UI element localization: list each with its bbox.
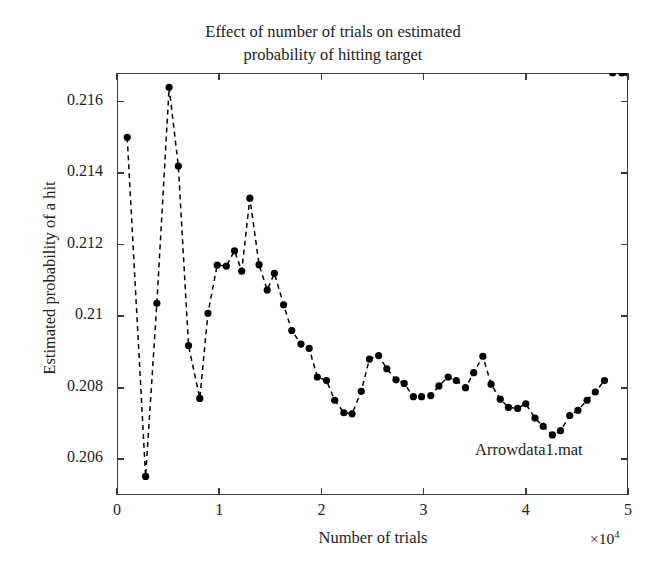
data-point — [566, 412, 573, 419]
data-point — [470, 369, 477, 376]
data-point — [255, 261, 262, 268]
data-point — [549, 431, 556, 438]
data-point — [592, 388, 599, 395]
x-axis-multiplier: ×104 — [590, 529, 620, 548]
data-point — [392, 376, 399, 383]
x-tick-label: 2 — [301, 501, 341, 519]
data-point — [366, 356, 373, 363]
data-point — [280, 301, 287, 308]
data-point — [331, 397, 338, 404]
x-tick-label: 5 — [608, 501, 648, 519]
chart-title: Effect of number of trials on estimated … — [0, 20, 666, 66]
data-point — [418, 393, 425, 400]
x-tick-mark — [116, 73, 118, 80]
data-point — [609, 73, 616, 77]
x-tick-label: 4 — [506, 501, 546, 519]
x-tick-mark — [218, 73, 220, 80]
data-point — [231, 247, 238, 254]
y-tick-mark — [117, 172, 124, 174]
data-point — [540, 423, 547, 430]
x-tick-mark — [116, 488, 118, 495]
x-tick-mark — [218, 488, 220, 495]
x-axis-multiplier-base: ×10 — [590, 530, 614, 547]
data-point — [185, 342, 192, 349]
y-tick-mark — [117, 101, 124, 103]
data-file-annotation: Arrowdata1.mat — [475, 440, 583, 460]
data-point — [505, 404, 512, 411]
data-point — [383, 365, 390, 372]
y-axis-label: Estimated probability of a hit — [40, 68, 60, 488]
data-point — [175, 162, 182, 169]
y-tick-label: 0.208 — [17, 377, 103, 395]
y-tick-label: 0.21 — [17, 305, 103, 323]
x-tick-label: 1 — [199, 501, 239, 519]
data-point — [401, 380, 408, 387]
y-tick-mark — [621, 101, 628, 103]
data-point — [531, 415, 538, 422]
data-point — [288, 327, 295, 334]
x-tick-mark — [627, 73, 629, 80]
series-markers — [124, 73, 628, 480]
data-point — [514, 405, 521, 412]
data-series-layer — [117, 73, 628, 495]
x-tick-mark — [525, 73, 527, 80]
data-point — [358, 388, 365, 395]
y-tick-label: 0.206 — [17, 448, 103, 466]
data-point — [223, 263, 230, 270]
data-point — [427, 392, 434, 399]
y-tick-mark — [117, 315, 124, 317]
data-point — [314, 373, 321, 380]
chart-title-line-1: Effect of number of trials on estimated — [0, 20, 666, 43]
data-point — [375, 352, 382, 359]
data-point — [462, 384, 469, 391]
chart-figure: Effect of number of trials on estimated … — [0, 0, 666, 575]
y-tick-mark — [621, 315, 628, 317]
data-point — [196, 395, 203, 402]
x-tick-mark — [423, 73, 425, 80]
y-tick-mark — [117, 387, 124, 389]
x-tick-mark — [423, 488, 425, 495]
data-point — [410, 393, 417, 400]
data-point — [323, 377, 330, 384]
data-point — [348, 410, 355, 417]
x-tick-mark — [525, 488, 527, 495]
data-point — [601, 377, 608, 384]
data-point — [297, 340, 304, 347]
y-tick-label: 0.216 — [17, 91, 103, 109]
data-point — [340, 409, 347, 416]
x-axis-multiplier-exponent: 4 — [614, 529, 619, 540]
y-tick-label: 0.212 — [17, 234, 103, 252]
data-point — [618, 73, 625, 77]
data-point — [214, 261, 221, 268]
data-point — [584, 397, 591, 404]
x-tick-label: 0 — [97, 501, 137, 519]
data-point — [574, 407, 581, 414]
data-point — [238, 268, 245, 275]
data-point — [124, 134, 131, 141]
data-point — [204, 310, 211, 317]
data-point — [497, 396, 504, 403]
data-point — [153, 300, 160, 307]
x-tick-mark — [321, 73, 323, 80]
x-tick-mark — [321, 488, 323, 495]
y-tick-mark — [621, 458, 628, 460]
data-point — [453, 377, 460, 384]
data-point — [522, 400, 529, 407]
y-tick-mark — [117, 244, 124, 246]
y-tick-mark — [621, 387, 628, 389]
x-tick-label: 3 — [404, 501, 444, 519]
data-point — [271, 270, 278, 277]
x-axis-label: Number of trials — [173, 528, 573, 548]
data-point — [487, 381, 494, 388]
data-point — [479, 353, 486, 360]
chart-title-line-2: probability of hitting target — [0, 43, 666, 66]
data-point — [246, 195, 253, 202]
data-point — [306, 345, 313, 352]
data-point — [445, 373, 452, 380]
data-point — [435, 382, 442, 389]
y-tick-label: 0.214 — [17, 162, 103, 180]
x-tick-mark — [627, 488, 629, 495]
data-point — [166, 84, 173, 91]
y-tick-mark — [117, 458, 124, 460]
y-tick-mark — [621, 172, 628, 174]
